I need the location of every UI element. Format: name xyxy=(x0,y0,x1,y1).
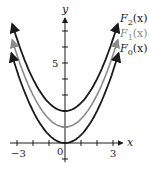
legend-f1x: F1(x) xyxy=(119,27,148,42)
y-axis-label: y xyxy=(61,3,69,16)
x-tick-label-3: 3 xyxy=(110,148,116,159)
x-tick-label-neg3: −3 xyxy=(11,148,26,159)
legend-f2x: F2(x) xyxy=(119,12,148,27)
chart-canvas: −3035xyF2(x)F1(x)F0(x) xyxy=(0,0,149,184)
x-axis-label: x xyxy=(127,136,134,149)
y-tick-label-5: 5 xyxy=(52,58,58,69)
origin-label: 0 xyxy=(57,146,63,157)
legend-f0x: F0(x) xyxy=(119,42,148,57)
